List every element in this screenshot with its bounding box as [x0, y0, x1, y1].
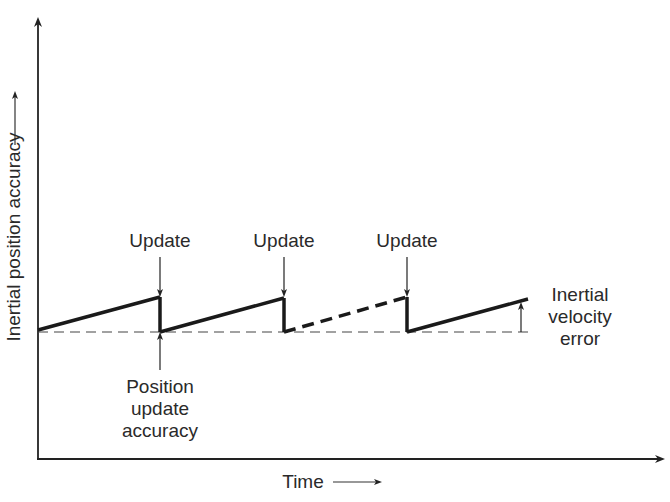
- update-arrows: [160, 257, 521, 370]
- x-axis-label: Time: [278, 471, 328, 493]
- y-axis-label: Inertial position accuracy: [3, 102, 25, 372]
- sawtooth-curve: [38, 297, 528, 332]
- label-line: Inertial: [535, 284, 625, 306]
- label-line: accuracy: [105, 420, 215, 442]
- update-label-3: Update: [367, 230, 447, 252]
- label-line: velocity: [535, 306, 625, 328]
- label-line: error: [535, 328, 625, 350]
- position-update-accuracy-label: Position update accuracy: [105, 376, 215, 442]
- label-line: Position: [105, 376, 215, 398]
- update-label-2: Update: [244, 230, 324, 252]
- inertial-velocity-error-label: Inertial velocity error: [535, 284, 625, 350]
- diagram-canvas: [0, 0, 670, 502]
- update-label-1: Update: [120, 230, 200, 252]
- label-line: update: [105, 398, 215, 420]
